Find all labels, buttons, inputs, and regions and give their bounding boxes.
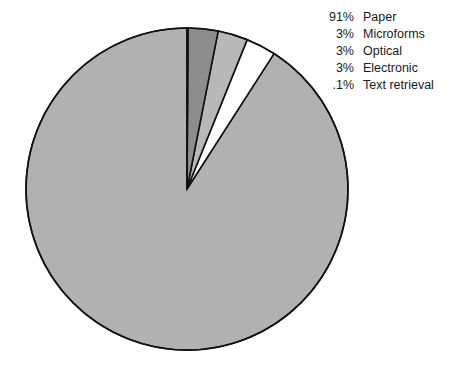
legend-label: Electronic bbox=[363, 60, 418, 77]
legend-label: Paper bbox=[363, 9, 396, 26]
list-item: 3% Optical bbox=[318, 43, 452, 60]
list-item: 3% Microforms bbox=[318, 26, 452, 43]
list-item: 3% Electronic bbox=[318, 60, 452, 77]
legend-percent: 91% bbox=[318, 9, 354, 26]
pie-slice-group bbox=[26, 28, 348, 350]
pie-slice bbox=[187, 28, 188, 189]
legend-percent: .1% bbox=[318, 77, 354, 94]
legend-label: Text retrieval bbox=[363, 77, 434, 94]
legend-label: Optical bbox=[363, 43, 402, 60]
legend-percent: 3% bbox=[318, 43, 354, 60]
list-item: 91% Paper bbox=[318, 9, 452, 26]
chart-page: 91% Paper 3% Microforms 3% Optical 3% El… bbox=[0, 0, 452, 381]
chart-legend: 91% Paper 3% Microforms 3% Optical 3% El… bbox=[318, 9, 452, 94]
list-item: .1% Text retrieval bbox=[318, 77, 452, 94]
legend-percent: 3% bbox=[318, 60, 354, 77]
legend-percent: 3% bbox=[318, 26, 354, 43]
legend-label: Microforms bbox=[363, 26, 425, 43]
